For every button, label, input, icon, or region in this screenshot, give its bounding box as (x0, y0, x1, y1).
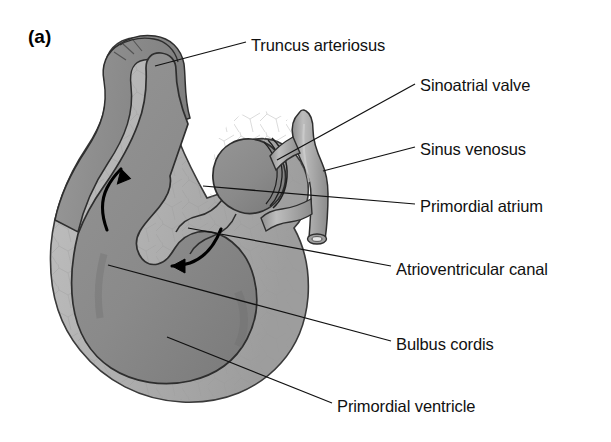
callout-label-primordial-ventricle: Primordial ventricle (337, 397, 475, 416)
callout-label-bulbus-cordis: Bulbus cordis (396, 335, 494, 354)
leader-line-sinus-venosus (323, 147, 415, 171)
callout-label-sinoatrial-valve: Sinoatrial valve (420, 76, 530, 95)
figure-panel: (a) Truncus arteriosusSinoatrial valveSi… (0, 0, 611, 442)
callout-label-truncus-arteriosus: Truncus arteriosus (251, 36, 385, 55)
embryonic-heart-diagram (0, 0, 611, 442)
sinus-venosus-lumen-opening (312, 237, 322, 242)
callout-label-sinus-venosus: Sinus venosus (420, 140, 526, 159)
callout-label-atrioventricular-canal: Atrioventricular canal (396, 260, 548, 279)
panel-label-a: (a) (28, 26, 51, 48)
callout-label-primordial-atrium: Primordial atrium (420, 197, 543, 216)
